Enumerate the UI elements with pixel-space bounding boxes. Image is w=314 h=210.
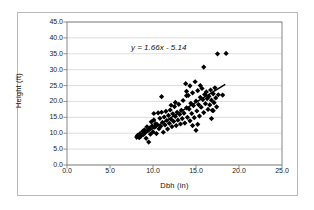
x-tick-label: 15.0 — [181, 167, 211, 174]
y-tick-label: 10.0 — [39, 129, 63, 136]
y-tick-label: 25.0 — [39, 82, 63, 89]
x-tick-label: 25.0 — [267, 167, 297, 174]
y-tick-label: 5.0 — [39, 145, 63, 152]
y-axis-tick-marks — [64, 22, 68, 165]
y-tick-label: 45.0 — [39, 18, 63, 25]
x-tick-label: 20.0 — [224, 167, 254, 174]
scatter-plot — [0, 0, 314, 210]
x-tick-label: 5.0 — [95, 167, 125, 174]
y-tick-label: 15.0 — [39, 113, 63, 120]
y-tick-label: 20.0 — [39, 97, 63, 104]
x-tick-label: 0.0 — [52, 167, 82, 174]
x-tick-label: 10.0 — [138, 167, 168, 174]
y-axis-title: Height (ft) — [14, 56, 23, 126]
y-tick-label: 40.0 — [39, 34, 63, 41]
y-tick-label: 35.0 — [39, 50, 63, 57]
y-tick-label: 0.0 — [39, 161, 63, 168]
x-axis-title: Dbh (in) — [67, 181, 282, 190]
regression-equation-label: y = 1.66x - 5.14 — [131, 43, 186, 52]
y-tick-label: 30.0 — [39, 66, 63, 73]
